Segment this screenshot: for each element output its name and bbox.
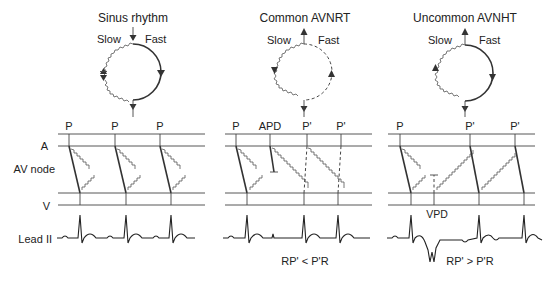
- beat-label: P': [510, 120, 519, 132]
- panel-uncommon-avnrt: Uncommon AVNHT Slow Fast: [413, 11, 517, 117]
- slow-pathway-label: Slow: [428, 34, 452, 46]
- beat-label: P: [156, 120, 163, 132]
- beat-label: P: [65, 120, 72, 132]
- slow-pathway-label: Slow: [267, 34, 291, 46]
- arrow-down-icon: [130, 35, 137, 41]
- caption-rp-greater: RP' > P'R: [446, 255, 493, 267]
- panel-title: Uncommon AVNHT: [413, 11, 517, 25]
- arrow-up-icon: [301, 28, 308, 35]
- arrow-up-icon: [328, 70, 335, 77]
- ladder-sinus-rhythm: P P P: [65, 120, 185, 205]
- row-label-atrium: A: [41, 140, 49, 152]
- caption-rp-less: RP' < P'R: [281, 255, 328, 267]
- beat-label: APD: [259, 120, 282, 132]
- slow-pathway: [103, 43, 133, 75]
- fast-pathway-label: Fast: [145, 33, 166, 45]
- beat-label: P: [396, 120, 403, 132]
- arrow-down-icon: [157, 70, 165, 77]
- beat-label: P': [302, 120, 311, 132]
- ladder-grid: [58, 134, 535, 205]
- slow-pathway: [435, 44, 465, 97]
- row-label-av-node: AV node: [14, 163, 55, 175]
- arrow-down-icon: [100, 75, 107, 81]
- slow-pathway-label: Slow: [97, 33, 121, 45]
- slow-pathway: [274, 43, 304, 96]
- beat-label: P: [232, 120, 239, 132]
- panel-sinus-rhythm: Sinus rhythm Slow Fast: [97, 11, 168, 117]
- fast-pathway: [304, 44, 332, 100]
- ladder-common-avnrt: P APD P' P': [232, 120, 345, 205]
- arrow-down-icon: [489, 74, 496, 81]
- fast-pathway-label: Fast: [479, 34, 500, 46]
- arrow-up-icon: [462, 28, 469, 35]
- beat-label: P': [336, 120, 345, 132]
- fast-pathway: [133, 44, 161, 100]
- panel-title: Sinus rhythm: [98, 11, 168, 25]
- avnrt-ladder-diagram: Sinus rhythm Slow Fast Common AVNRT Slow…: [0, 0, 555, 281]
- row-label-ventricle: V: [43, 200, 51, 212]
- panel-title: Common AVNRT: [260, 11, 352, 25]
- panel-common-avnrt: Common AVNRT Slow Fast: [260, 11, 352, 117]
- beat-label: P': [465, 120, 474, 132]
- fast-pathway-label: Fast: [318, 34, 339, 46]
- vpd-label: VPD: [426, 208, 448, 220]
- row-label-ecg: Lead II: [18, 233, 52, 245]
- slow-pathway-lower: [105, 80, 129, 102]
- beat-label: P: [111, 120, 118, 132]
- fast-pathway: [465, 45, 493, 101]
